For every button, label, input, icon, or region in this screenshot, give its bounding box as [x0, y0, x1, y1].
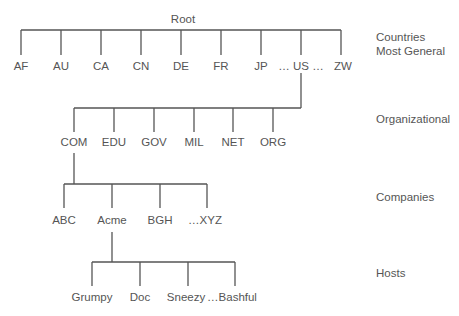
- org-node: ORG: [260, 137, 286, 149]
- country-node: ZW: [334, 61, 352, 73]
- org-node: NET: [222, 137, 245, 149]
- company-node-acme: Acme: [97, 215, 126, 227]
- host-node: …Bashful: [207, 292, 257, 304]
- host-node: Doc: [130, 292, 150, 304]
- level-label-line: Countries: [376, 30, 445, 44]
- host-node: Grumpy: [72, 292, 113, 304]
- level-label-countries: Countries Most General: [376, 30, 445, 58]
- level-label-companies: Companies: [376, 190, 434, 204]
- level-label-organizational: Organizational: [376, 112, 450, 126]
- company-node: …XYZ: [188, 215, 222, 227]
- level-label-line: Most General: [376, 44, 445, 58]
- country-node: AF: [14, 61, 29, 73]
- host-node: Sneezy: [167, 292, 205, 304]
- country-node: CA: [93, 61, 109, 73]
- country-node: JP: [254, 61, 267, 73]
- country-node: CN: [133, 61, 150, 73]
- country-node-us: … US …: [278, 61, 323, 73]
- org-node: EDU: [102, 137, 126, 149]
- country-node: AU: [53, 61, 69, 73]
- org-node: GOV: [141, 137, 167, 149]
- level-label-hosts: Hosts: [376, 266, 405, 280]
- root-node: Root: [171, 14, 195, 26]
- company-node: BGH: [148, 215, 173, 227]
- org-node-com: COM: [61, 137, 88, 149]
- country-node: DE: [173, 61, 189, 73]
- country-node: FR: [213, 61, 228, 73]
- company-node: ABC: [52, 215, 76, 227]
- org-node: MIL: [184, 137, 203, 149]
